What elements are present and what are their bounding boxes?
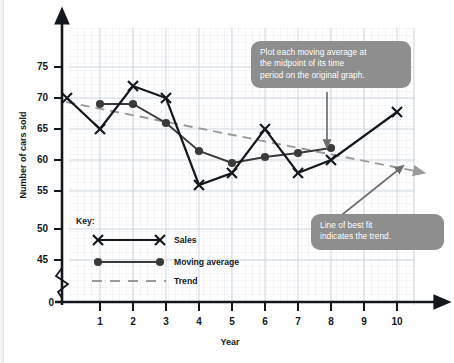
x-tick-label-7: 7: [288, 316, 308, 327]
origin-label: 0: [36, 297, 54, 308]
x-tick-label-6: 6: [255, 316, 275, 327]
legend-label-sales: Sales: [174, 235, 196, 245]
y-tick-label-50: 50: [22, 223, 48, 234]
x-axis-title: Year: [190, 337, 270, 347]
y-axis-title: Number of cars sold: [18, 100, 28, 210]
x-tick-label-4: 4: [189, 316, 209, 327]
legend-label-moving-average: Moving average: [174, 257, 239, 267]
callout-best-fit-line-2: indicates the trend.: [320, 231, 436, 242]
x-tick-label-9: 9: [354, 316, 374, 327]
x-tick-label-5: 5: [222, 316, 242, 327]
chart-page: 75 70 65 60 55 50 45 0 1 2 3 4 5 6 7 8 9…: [0, 0, 454, 363]
callout-moving-average-line-3: period on the original graph.: [260, 70, 403, 81]
legend-label-trend: Trend: [174, 276, 197, 286]
callout-moving-average-line-1: Plot each moving average at: [260, 47, 403, 58]
x-tick-label-2: 2: [123, 316, 143, 327]
callout-moving-average: Plot each moving average at the midpoint…: [251, 41, 411, 88]
x-tick-label-8: 8: [321, 316, 341, 327]
x-tick-label-3: 3: [156, 316, 176, 327]
legend-title: Key:: [76, 216, 95, 226]
y-tick-label-45: 45: [22, 254, 48, 265]
callout-best-fit: Line of best fit indicates the trend.: [311, 214, 444, 250]
x-tick-label-1: 1: [90, 316, 110, 327]
callout-moving-average-line-2: the midpoint of its time: [260, 58, 403, 69]
y-tick-label-75: 75: [22, 61, 48, 72]
callout-best-fit-line-1: Line of best fit: [320, 220, 436, 231]
x-tick-label-10: 10: [387, 316, 407, 327]
